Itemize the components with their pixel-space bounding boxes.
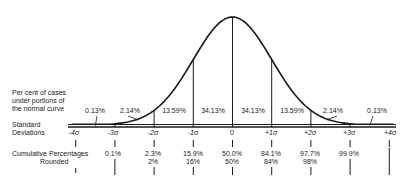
segment-percent: 13.59% [280,107,304,115]
rounded-percent: 50% [225,158,239,166]
sigma-label: -2σ [148,129,158,137]
rounded-percent: 84% [264,158,278,166]
cumulative-percent: 50.0% [222,150,242,158]
standard-deviations-label-line2: Deviations [12,129,45,137]
cumulative-percent: 97.7% [300,150,320,158]
sigma-label: 0 [230,129,234,137]
segment-percent: 34.13% [201,107,225,115]
standard-deviations-label-line1: Standard [12,121,40,129]
cumulative-percent: 84.1% [261,150,281,158]
rounded-percent: 2% [148,158,158,166]
segment-percent: 0.13% [85,107,105,115]
percent-cases-label-line3: the normal curve [12,105,64,113]
sigma-label: +1σ [265,129,277,137]
rounded-percent: 98% [303,158,317,166]
cumulative-percent: 15.9% [183,150,203,158]
sigma-label: -4σ [69,129,79,137]
sigma-label: -3σ [108,129,118,137]
segment-percent: 34.13% [241,107,265,115]
segment-percent: 2.14% [323,107,343,115]
sigma-label: -1σ [188,129,198,137]
pointer-line [128,116,138,120]
percent-cases-label-line1: Per cent of cases [12,89,66,97]
sigma-label: +4σ [384,129,396,137]
cumulative-percentages-label: Cumulative Percentages [12,150,88,158]
sigma-label: +2σ [304,129,316,137]
cumulative-percent: 99.9% [339,150,359,158]
sigma-division-lines [115,17,350,127]
percent-cases-label-line2: under portions of [12,97,65,105]
segment-percent: 2.14% [120,107,140,115]
cumulative-percent: 2.3% [145,150,161,158]
pointer-line [327,116,337,120]
segment-percent: 0.13% [367,107,387,115]
cumulative-percent: 0.1% [105,150,121,158]
rounded-label: Rounded [40,158,68,166]
segment-percent: 13.59% [162,107,186,115]
sigma-label: +3σ [343,129,355,137]
rounded-percent: 16% [186,158,200,166]
